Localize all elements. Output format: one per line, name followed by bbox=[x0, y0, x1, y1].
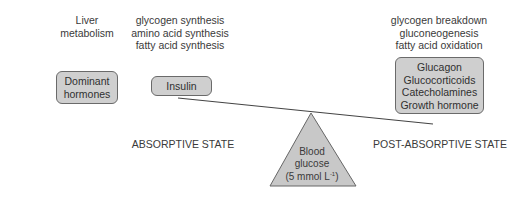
post-absorptive-state-label: POST-ABSORPTIVE STATE bbox=[370, 138, 510, 151]
glucose-value: (5 mmol L-1) bbox=[281, 169, 343, 183]
absorptive-state-label: ABSORPTIVE STATE bbox=[128, 138, 238, 151]
dominant-hormones-box: Dominant hormones bbox=[56, 71, 118, 104]
counter-regulatory-hormones-box: Glucagon Glucocorticoids Catecholamines … bbox=[395, 57, 484, 114]
post-absorptive-processes: glycogen breakdown gluconeogenesis fatty… bbox=[382, 14, 496, 52]
absorptive-processes: glycogen synthesis amino acid synthesis … bbox=[125, 14, 235, 52]
blood-glucose-label: Blood glucose (5 mmol L-1) bbox=[281, 146, 343, 183]
liver-metabolism-heading: Liver metabolism bbox=[52, 14, 122, 39]
insulin-box: Insulin bbox=[151, 76, 212, 96]
